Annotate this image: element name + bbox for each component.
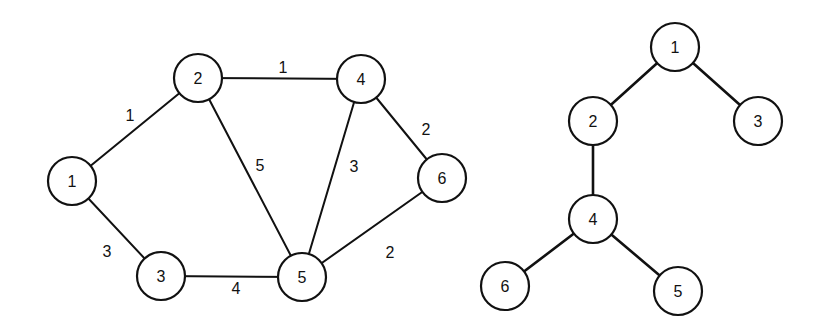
node-label: 2 [194, 70, 203, 87]
node-label: 5 [674, 283, 683, 300]
node-label: 4 [357, 71, 366, 88]
node-label: 3 [754, 113, 763, 130]
graph-node-3: 3 [137, 252, 185, 300]
node-label: 3 [157, 268, 166, 285]
graph-edge-4-5 [302, 79, 361, 277]
spanning-tree: 123465 [481, 23, 782, 315]
graph-edge-weight-4-5: 3 [350, 158, 359, 175]
tree-node-3: 3 [734, 97, 782, 145]
tree-node-6: 6 [481, 262, 529, 310]
node-label: 5 [298, 269, 307, 286]
graph-node-6: 6 [418, 154, 466, 202]
graph-edge-weight-6-5: 2 [386, 244, 395, 261]
graph-edge-weight-2-4: 1 [279, 59, 288, 76]
weighted-graph: 11534322123456 [48, 54, 466, 301]
node-label: 6 [501, 278, 510, 295]
graph-node-5: 5 [278, 253, 326, 301]
node-label: 1 [671, 39, 680, 56]
tree-node-4: 4 [569, 195, 617, 243]
tree-node-2: 2 [569, 97, 617, 145]
graph-edge-weight-4-6: 2 [422, 121, 431, 138]
node-label: 4 [589, 211, 598, 228]
graph-edge-weight-3-5: 4 [232, 280, 241, 297]
graph-edge-weight-2-5: 5 [256, 157, 265, 174]
node-label: 1 [68, 173, 77, 190]
graph-edge-weight-1-2: 1 [126, 107, 135, 124]
graph-edge-2-5 [198, 78, 302, 277]
tree-node-5: 5 [654, 267, 702, 315]
graph-node-2: 2 [174, 54, 222, 102]
graph-node-1: 1 [48, 157, 96, 205]
graph-node-4: 4 [337, 55, 385, 103]
node-label: 6 [438, 170, 447, 187]
diagram-canvas: 11534322123456 123465 [0, 0, 823, 334]
graph-edge-weight-1-3: 3 [103, 243, 112, 260]
node-label: 2 [589, 113, 598, 130]
graph-edge-6-5 [302, 178, 442, 277]
tree-node-1: 1 [651, 23, 699, 71]
